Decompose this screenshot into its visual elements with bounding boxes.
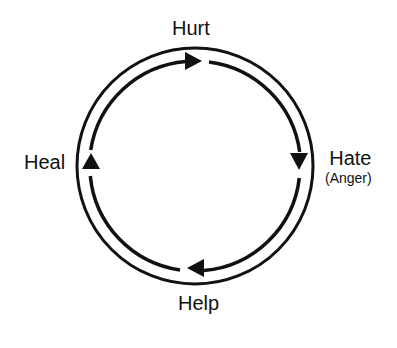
arc-hurt-to-hate bbox=[209, 62, 300, 152]
node-label-hurt: Hurt bbox=[172, 18, 210, 38]
arrowhead-right-icon bbox=[185, 52, 202, 70]
outer-ring bbox=[77, 48, 313, 284]
node-label-heal: Heal bbox=[24, 152, 65, 172]
arrowhead-left-icon bbox=[187, 259, 204, 277]
arc-help-to-heal bbox=[90, 176, 180, 270]
arc-heal-to-hurt bbox=[91, 61, 186, 150]
arrowhead-up-icon bbox=[82, 153, 100, 169]
cycle-diagram: Hurt Hate (Anger) Help Heal bbox=[0, 0, 397, 348]
arc-hate-to-help bbox=[204, 178, 299, 271]
node-label-hate: Hate bbox=[329, 147, 371, 169]
node-label-help: Help bbox=[178, 293, 219, 313]
node-hate: Hate (Anger) bbox=[329, 148, 372, 185]
arrowhead-down-icon bbox=[290, 153, 308, 170]
node-sublabel-anger: (Anger) bbox=[325, 171, 372, 185]
